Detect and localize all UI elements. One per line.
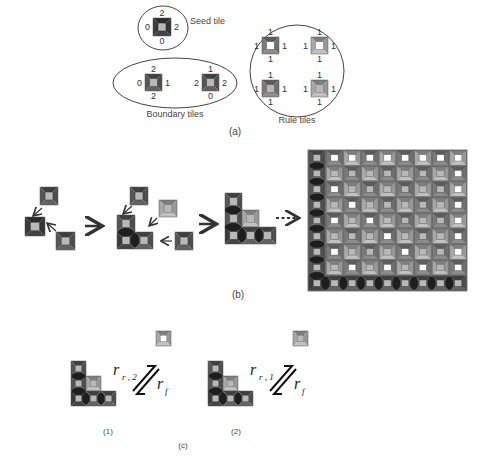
tile-center — [349, 233, 356, 239]
glue-blob — [72, 373, 86, 380]
tile-center — [384, 186, 391, 192]
glue-blob — [98, 393, 105, 405]
grid-cell — [344, 182, 361, 197]
tile-center — [366, 233, 373, 239]
tile-center — [264, 232, 271, 239]
grid-cell — [397, 182, 414, 197]
grid-cell — [432, 151, 449, 166]
glue-label-right: 2 — [174, 22, 179, 32]
grid-cell — [362, 182, 379, 197]
tile-center — [419, 280, 426, 286]
grid-cell — [450, 245, 467, 260]
glue-label-right: 1 — [282, 84, 287, 94]
tile-center — [316, 42, 323, 49]
tile-center — [419, 186, 426, 192]
incoming-boundary-h — [175, 232, 193, 250]
grid-cell — [450, 213, 467, 228]
glue-blob — [225, 223, 241, 231]
tile-center — [247, 232, 254, 239]
grid-cell — [415, 151, 432, 166]
grid-cell — [397, 229, 414, 244]
tile-center — [366, 217, 373, 223]
boundary-tile: 1202 — [194, 64, 227, 101]
grid-cell — [379, 198, 396, 213]
caption-b: (b) — [232, 289, 244, 300]
tile-center — [227, 395, 234, 402]
tile-center — [267, 42, 274, 49]
rule-tile: 1111 — [303, 70, 336, 107]
glue-blob — [309, 225, 324, 232]
tile-center — [455, 155, 462, 161]
grid-cell — [397, 151, 414, 166]
boundary-tiles: 21201202 — [137, 64, 227, 101]
case-1-label: (1) — [103, 427, 113, 436]
grid-cell — [415, 260, 432, 275]
grid-cell — [450, 166, 467, 181]
grid-cell — [379, 213, 396, 228]
grid-cell — [450, 182, 467, 197]
tile-center — [331, 264, 338, 270]
grid-cell — [326, 182, 343, 197]
tile-center — [419, 155, 426, 161]
caption-a: (a) — [229, 126, 241, 137]
glue-blob — [410, 277, 418, 290]
glue-blob — [322, 277, 330, 290]
tile-center — [437, 186, 444, 192]
reverse-rate-subscript: f — [302, 386, 306, 396]
rule-tile: 1111 — [254, 70, 287, 107]
glue-blob — [392, 277, 400, 290]
case-1: rr , 2rf — [71, 331, 171, 406]
boundary-tile-square — [145, 74, 162, 91]
grid-cell — [397, 166, 414, 181]
grid-cell — [415, 166, 432, 181]
tile-center — [384, 170, 391, 176]
grid-cell — [379, 245, 396, 260]
tile-center — [90, 395, 97, 402]
panel-c: rr , 2rf rr , 1rf (1) (2) (c) — [71, 331, 308, 450]
glue-blob — [309, 256, 324, 263]
tile-center — [230, 215, 237, 222]
grid-cell — [415, 229, 432, 244]
rule-tile-square — [311, 37, 328, 54]
case-2-label: (2) — [231, 427, 241, 436]
glue-label-right: 1 — [331, 84, 336, 94]
tile-center — [349, 155, 356, 161]
attach-arrow — [34, 208, 42, 215]
glue-blob — [309, 178, 324, 185]
tile-center — [331, 217, 338, 223]
tile-center — [366, 202, 373, 208]
tile-center — [164, 205, 172, 212]
glue-label-bottom: 1 — [317, 54, 322, 64]
glue-label-top: 1 — [268, 70, 273, 80]
grid-cell — [415, 245, 432, 260]
tile-center — [402, 217, 409, 223]
tile-center — [61, 237, 69, 245]
grid-cell — [326, 166, 343, 181]
grid-cell — [344, 151, 361, 166]
panel-b: (b) — [25, 150, 467, 300]
glue-label-top: 1 — [268, 27, 273, 37]
glue-label-bottom: 0 — [208, 91, 213, 101]
grid-cell — [397, 213, 414, 228]
tile-center — [45, 192, 53, 200]
rule-tiles: 1111111111111111 — [254, 27, 336, 107]
tile-center — [402, 202, 409, 208]
tile-center — [455, 280, 462, 286]
glue-blob — [339, 277, 347, 290]
glue-blob — [209, 373, 223, 380]
rule-label: Rule tiles — [278, 115, 316, 125]
glue-label-bottom: 0 — [159, 36, 164, 46]
glue-label-left: 0 — [137, 78, 142, 88]
tile-center — [402, 264, 409, 270]
tile-center — [437, 202, 444, 208]
glue-label-bottom: 1 — [268, 97, 273, 107]
tile-center — [331, 186, 338, 192]
grid-cell — [379, 166, 396, 181]
grid-cell — [379, 260, 396, 275]
grid-cell — [326, 229, 343, 244]
glue-blob — [445, 277, 453, 290]
glue-blob — [309, 194, 324, 201]
grid-cell — [362, 229, 379, 244]
step3-l-assembly — [225, 193, 276, 244]
tile-center — [122, 220, 130, 227]
